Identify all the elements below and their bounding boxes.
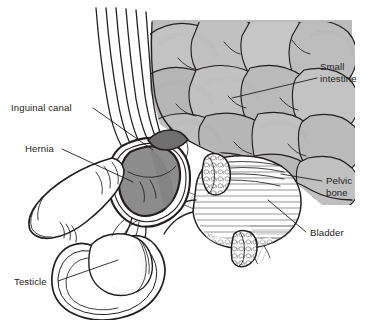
- illustration-canvas: Small intestine Inguinal canal Hernia Pe…: [0, 0, 375, 320]
- pelvic-bone-lower: [231, 230, 257, 266]
- hernia-label: Hernia: [25, 143, 54, 154]
- inguinal-canal-label: Inguinal canal: [11, 102, 72, 113]
- testicle-label: Testicle: [14, 276, 47, 287]
- pelvic-bone-upper: [202, 154, 230, 195]
- anatomical-illustration-figure: Small intestine Inguinal canal Hernia Pe…: [0, 0, 375, 320]
- bladder-label: Bladder: [310, 227, 344, 238]
